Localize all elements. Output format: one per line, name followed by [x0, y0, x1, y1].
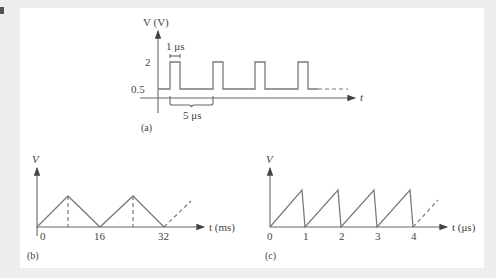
- b-triangle-wave: [37, 196, 164, 227]
- b-t-axis-label: t (ms): [209, 221, 235, 234]
- c-tick-0: 0: [267, 230, 273, 242]
- c-continuation-dash: [413, 200, 438, 227]
- c-y-axis-label: V: [266, 153, 274, 165]
- panel-b: V 0 16 32 t (ms) (b): [27, 153, 235, 262]
- panel-c: V 0 1 2 3 4 t (μs) (c): [265, 153, 476, 262]
- c-caption: (c): [265, 250, 276, 262]
- b-caption: (b): [27, 250, 39, 262]
- c-tick-3: 3: [375, 230, 381, 242]
- c-sawtooth-wave: [270, 190, 413, 227]
- a-y-axis-label: V (V): [143, 16, 169, 29]
- b-tick-16: 16: [94, 230, 106, 242]
- b-tick-32: 32: [158, 230, 169, 242]
- a-tick-2: 2: [145, 56, 151, 68]
- c-tick-2: 2: [339, 230, 345, 242]
- a-pulse-train: [158, 62, 318, 89]
- a-period-label: 5 μs: [183, 109, 201, 121]
- b-tick-0: 0: [40, 230, 46, 242]
- b-y-axis-label: V: [32, 153, 40, 165]
- figure-panel: V (V) 2 0.5 1 μs 5 μs t (a) V 0 16 32 t …: [20, 8, 484, 268]
- a-t-axis-label: t: [360, 91, 364, 103]
- a-tick-0-5: 0.5: [131, 83, 145, 95]
- figure-svg: V (V) 2 0.5 1 μs 5 μs t (a) V 0 16 32 t …: [20, 8, 484, 268]
- c-tick-1: 1: [303, 230, 309, 242]
- corner-mark: [0, 7, 4, 14]
- panel-a: V (V) 2 0.5 1 μs 5 μs t (a): [131, 16, 364, 134]
- a-pulse-width-label: 1 μs: [166, 40, 184, 52]
- a-caption: (a): [141, 122, 152, 134]
- c-tick-4: 4: [411, 230, 417, 242]
- b-continuation-dash: [164, 201, 191, 227]
- c-t-axis-label: t (μs): [452, 221, 476, 234]
